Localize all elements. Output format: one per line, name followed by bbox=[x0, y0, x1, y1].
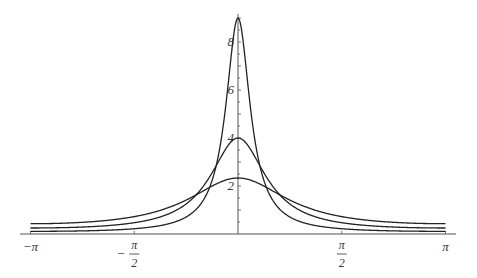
x-tick-label-numerator: π bbox=[339, 238, 346, 252]
x-tick-label-numerator: π bbox=[131, 238, 138, 252]
chart-container: 2468−ππ2−π2π bbox=[0, 0, 477, 278]
x-tick-label: −π bbox=[23, 239, 39, 254]
x-tick-label: π bbox=[442, 239, 449, 254]
x-tick-label-sign: − bbox=[116, 246, 125, 261]
y-tick-label: 2 bbox=[228, 178, 235, 193]
x-tick-label-denominator: 2 bbox=[131, 256, 137, 270]
x-tick-label-denominator: 2 bbox=[339, 256, 345, 270]
poisson-kernel-plot: 2468−ππ2−π2π bbox=[0, 0, 477, 278]
